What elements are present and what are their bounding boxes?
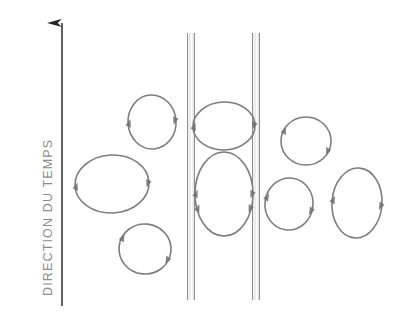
loop-center-upper-ring (192, 101, 256, 151)
loop-center-lower-ring (195, 152, 253, 236)
loop-mid-left-large-ring (74, 153, 151, 215)
loop-upper-right (281, 117, 332, 165)
loop-far-right-tall-ring (330, 166, 385, 239)
loop-upper-left-small (124, 93, 181, 151)
loop-far-right-tall (327, 166, 387, 240)
loop-mid-left-large (71, 153, 153, 215)
loop-group (71, 93, 387, 276)
loop-center-upper (190, 101, 259, 151)
loop-lower-right-small (259, 175, 318, 234)
loop-lower-left-small-ring (117, 221, 174, 276)
rail-left (188, 33, 195, 300)
loop-lower-right-small-ring (262, 175, 317, 233)
loop-lower-left-small (116, 221, 175, 276)
diagram-svg (0, 0, 407, 319)
loop-upper-right-ring (281, 117, 331, 165)
loop-center-lower (192, 152, 255, 236)
diagram-canvas: DIRECTION DU TEMPS (0, 0, 407, 319)
loop-upper-left-small-ring (126, 93, 178, 150)
rail-right (253, 33, 260, 300)
rail-group (188, 33, 260, 300)
